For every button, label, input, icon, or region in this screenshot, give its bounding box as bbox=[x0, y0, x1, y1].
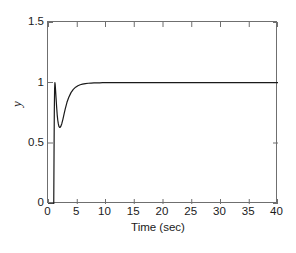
ytick-label-0: 0 bbox=[38, 197, 44, 209]
xtick-label-40: 40 bbox=[270, 206, 283, 218]
plot-area bbox=[47, 21, 277, 203]
xtick-label-0: 0 bbox=[44, 206, 50, 218]
xtick-label-10: 10 bbox=[98, 206, 111, 218]
ytick-label-1p5: 1.5 bbox=[28, 16, 44, 28]
x-axis-ticks-top bbox=[49, 22, 278, 27]
y-axis-ticks-right bbox=[273, 23, 278, 204]
ytick-label-1: 1 bbox=[38, 77, 44, 89]
xtick-label-5: 5 bbox=[73, 206, 79, 218]
xtick-label-20: 20 bbox=[156, 206, 169, 218]
x-axis-label: Time (sec) bbox=[0, 221, 296, 233]
response-curve bbox=[48, 83, 278, 204]
ytick-label-0p5: 0.5 bbox=[28, 137, 44, 149]
y-axis-label: y bbox=[9, 93, 25, 115]
xtick-label-25: 25 bbox=[184, 206, 197, 218]
plot-canvas bbox=[48, 22, 278, 204]
y-axis-ticks bbox=[48, 23, 53, 204]
page-caption-fragment bbox=[14, 243, 134, 251]
xtick-label-30: 30 bbox=[213, 206, 226, 218]
xtick-label-35: 35 bbox=[242, 206, 255, 218]
x-axis-ticks bbox=[49, 199, 278, 204]
x-axis-label-text: Time (sec) bbox=[131, 221, 185, 233]
figure-panel: 1.5 1 0.5 0 y bbox=[0, 0, 296, 253]
xtick-label-15: 15 bbox=[127, 206, 140, 218]
